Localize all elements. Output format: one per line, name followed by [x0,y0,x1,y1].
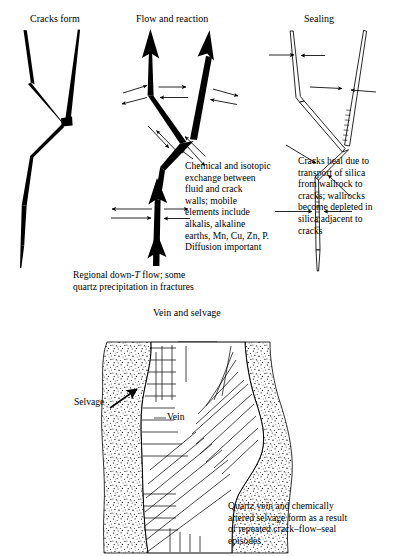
exchange-arrows-upper [122,86,238,105]
panel-title-sealing: Sealing [304,14,334,24]
panel-title-vein-and-selvage: Vein and selvage [153,308,221,318]
caption-line2: quartz precipitation in fractures [73,281,194,292]
flow-and-reaction-annotation: Chemical and isotopic exchange between f… [185,160,289,253]
panel-cracks-form [20,30,80,268]
caption-pre: Regional down- [73,269,135,280]
selvage-label: Selvage [74,397,104,407]
vein-and-selvage-caption: Quartz vein and chemically altered selva… [228,500,406,546]
exchange-arrows-lower [111,209,190,219]
caption-post: flow; some [140,269,185,280]
panel-title-cracks-form: Cracks form [30,14,80,24]
flow-and-reaction-caption: Regional down-T flow; somequartz precipi… [73,269,253,292]
sealing-annotation: Cracks heal due to transport of silica f… [298,155,402,236]
panel-title-flow-and-reaction: Flow and reaction [136,14,208,24]
crack-trace-group-left [20,30,80,268]
vein-label: Vein [167,412,185,422]
